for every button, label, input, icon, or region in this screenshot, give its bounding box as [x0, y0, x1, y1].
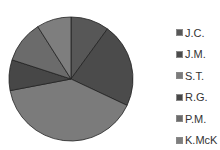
legend-label: J.M.: [185, 48, 206, 60]
legend-item: J.M.: [176, 44, 217, 66]
legend-item: K.McK: [176, 130, 217, 150]
legend-label: P.M.: [185, 113, 206, 125]
legend-item: J.C.: [176, 22, 217, 44]
legend-label: K.McK: [185, 134, 217, 146]
pie-chart: [0, 0, 140, 149]
legend-item: R.G.: [176, 87, 217, 109]
legend-swatch: [176, 115, 183, 122]
legend-swatch: [176, 72, 183, 79]
legend-swatch: [176, 94, 183, 101]
legend-label: R.G.: [185, 91, 208, 103]
legend-label: J.C.: [185, 27, 205, 39]
legend-swatch: [176, 51, 183, 58]
legend-item: P.M.: [176, 108, 217, 130]
legend-swatch: [176, 137, 183, 144]
legend-label: S.T.: [185, 70, 204, 82]
legend-item: S.T.: [176, 65, 217, 87]
chart-legend: J.C. J.M. S.T. R.G. P.M. K.McK: [176, 22, 217, 149]
legend-swatch: [176, 29, 183, 36]
